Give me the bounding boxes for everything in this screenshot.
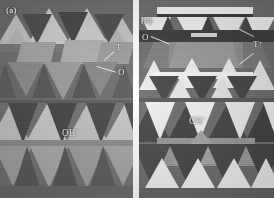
- oh-label-b-charge: −: [203, 115, 206, 121]
- bottom-strip-a: [0, 186, 133, 198]
- section-divider-b: [139, 98, 274, 102]
- octahedron-face: [16, 42, 56, 64]
- oh-label-b: OH−: [189, 114, 206, 126]
- oh-label-b-text: OH: [189, 116, 203, 126]
- bottom-strip-b: [139, 188, 274, 198]
- octahedron-face: [96, 42, 133, 64]
- oh-label-a-charge: −: [76, 127, 79, 133]
- section-divider-a: [0, 100, 133, 103]
- t-label-a: T: [116, 43, 122, 52]
- t-label-b: T: [253, 40, 259, 49]
- o-label-b: O: [142, 33, 149, 42]
- oh-label-a-text: OH: [62, 128, 76, 138]
- panel-a-label: (a): [6, 6, 17, 15]
- interlayer-highlight-b: [191, 33, 217, 37]
- o-label-a: O: [118, 68, 125, 77]
- oh-label-a: OH−: [62, 126, 79, 138]
- top-dark-edge-b: [157, 14, 253, 17]
- panel-a: T O: [0, 0, 133, 198]
- panel-b: O T: [139, 0, 274, 198]
- figure-root: T O: [0, 0, 274, 198]
- panel-b-label: (b): [141, 16, 152, 25]
- top-white-bar-b: [157, 7, 253, 14]
